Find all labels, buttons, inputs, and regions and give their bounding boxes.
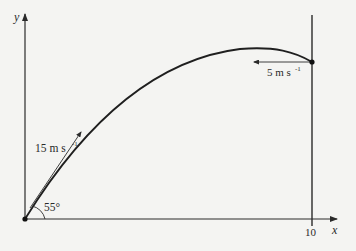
impact-speed-label: 5 m s [267,66,291,78]
impact-speed-exp: -1 [295,65,301,73]
impact-point [309,59,314,64]
launch-speed-exp: -1 [72,140,78,148]
angle-label: 55° [44,201,61,213]
x-axis-label: x [331,223,338,237]
launch-speed-label: 15 m s [35,142,66,154]
launch-point [22,216,27,221]
projectile-diagram: y x 10 15 m s -1 55° 5 m s -1 [0,0,356,251]
y-axis-label: y [13,10,20,24]
x-tick-label: 10 [305,226,317,238]
